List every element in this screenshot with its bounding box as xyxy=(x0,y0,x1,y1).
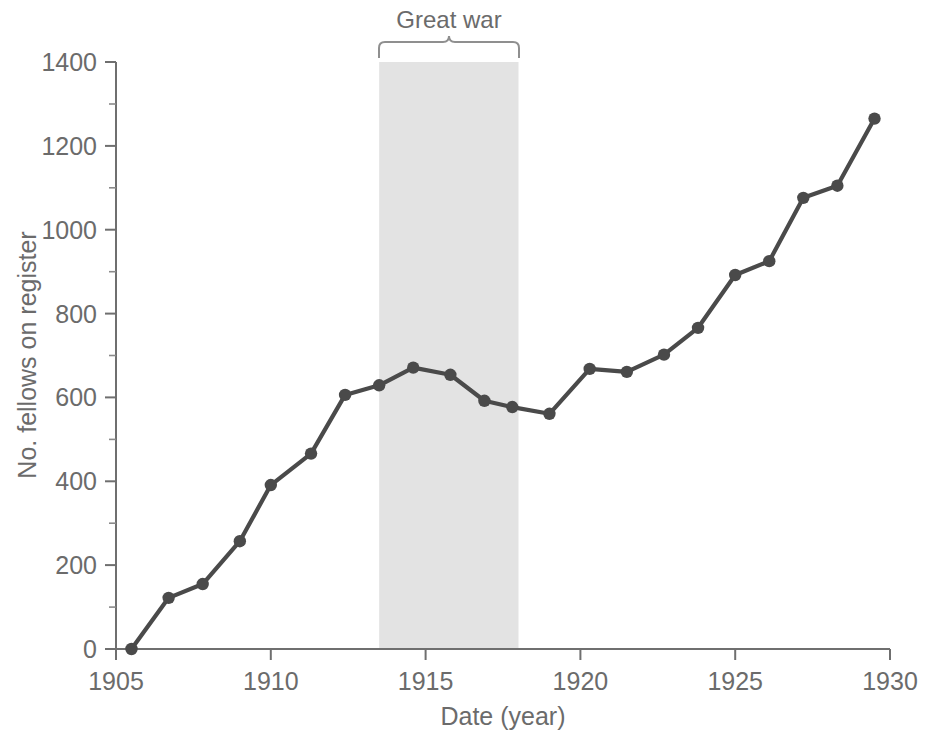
data-point xyxy=(407,361,419,373)
y-tick-label: 800 xyxy=(55,300,97,328)
data-point xyxy=(729,269,741,281)
y-axis-minor-ticks xyxy=(109,104,116,607)
data-point xyxy=(658,348,670,360)
data-point xyxy=(339,389,351,401)
data-point xyxy=(692,322,704,334)
x-tick-label: 1925 xyxy=(707,667,763,695)
data-point xyxy=(162,592,174,604)
y-tick-label: 0 xyxy=(83,635,97,663)
x-tick-label: 1930 xyxy=(862,667,918,695)
y-axis-tick-labels: 0 200 400 600 800 1000 1200 1400 xyxy=(41,48,97,663)
y-tick-label: 1000 xyxy=(41,216,97,244)
data-point xyxy=(125,643,137,655)
data-point xyxy=(583,363,595,375)
chart-figure: Great war 0 200 xyxy=(0,0,934,743)
data-point xyxy=(868,112,880,124)
great-war-brace xyxy=(379,36,519,58)
x-tick-label: 1905 xyxy=(88,667,144,695)
y-tick-label: 600 xyxy=(55,383,97,411)
x-tick-label: 1910 xyxy=(243,667,299,695)
line-chart: Great war 0 200 xyxy=(0,0,934,743)
x-axis-title: Date (year) xyxy=(440,702,565,730)
x-axis-tick-labels: 1905 1910 1915 1920 1925 1930 xyxy=(88,667,918,695)
data-point xyxy=(831,179,843,191)
data-point xyxy=(444,369,456,381)
y-axis-title: No. fellows on register xyxy=(13,231,41,478)
x-tick-label: 1915 xyxy=(398,667,454,695)
great-war-shaded-band xyxy=(379,62,518,649)
y-tick-label: 400 xyxy=(55,467,97,495)
y-tick-label: 1200 xyxy=(41,132,97,160)
data-point xyxy=(797,192,809,204)
data-point xyxy=(478,395,490,407)
great-war-label: Great war xyxy=(396,6,501,33)
x-tick-label: 1920 xyxy=(553,667,609,695)
y-tick-label: 1400 xyxy=(41,48,97,76)
data-point xyxy=(373,379,385,391)
data-point xyxy=(543,408,555,420)
data-point xyxy=(506,401,518,413)
x-axis-ticks xyxy=(116,649,890,660)
y-tick-label: 200 xyxy=(55,551,97,579)
data-point xyxy=(265,479,277,491)
data-point xyxy=(305,447,317,459)
data-point xyxy=(621,366,633,378)
data-point xyxy=(234,535,246,547)
data-point xyxy=(763,255,775,267)
data-point xyxy=(196,578,208,590)
